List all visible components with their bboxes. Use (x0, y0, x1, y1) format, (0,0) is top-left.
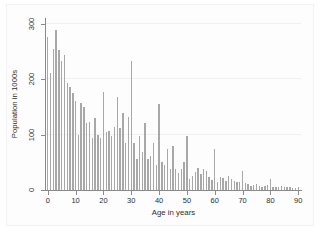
bar (242, 171, 243, 190)
bar (208, 177, 209, 190)
gridline (45, 78, 301, 79)
bar (192, 176, 193, 190)
bar (153, 143, 154, 190)
bar (64, 55, 65, 190)
y-tick-label: 300 (24, 24, 38, 25)
bar (106, 132, 107, 190)
bar (197, 168, 198, 190)
bar (220, 177, 221, 190)
bar (94, 118, 95, 190)
x-tick (131, 191, 132, 195)
bar (183, 162, 184, 190)
bar (108, 131, 109, 190)
bar (217, 182, 218, 190)
bar (133, 143, 134, 190)
bar (156, 165, 157, 190)
bar (142, 152, 143, 190)
bar (231, 179, 232, 190)
bar (167, 149, 168, 190)
x-tick-label: 20 (99, 196, 107, 205)
bar (236, 182, 237, 190)
bar (131, 61, 132, 190)
x-tick-label: 0 (46, 196, 50, 205)
x-tick (243, 191, 244, 195)
bar (86, 123, 87, 190)
y-axis-title: Population in 1000s (10, 70, 19, 139)
bar (245, 183, 246, 190)
y-tick (41, 79, 45, 80)
bar (203, 169, 204, 190)
y-tick (41, 190, 45, 191)
gridline (45, 23, 301, 24)
x-axis-line (45, 190, 302, 191)
plot-area (45, 18, 301, 190)
bar (139, 136, 140, 190)
bar (144, 123, 145, 190)
x-tick (298, 191, 299, 195)
bar (164, 165, 165, 190)
bar (172, 146, 173, 190)
bar (119, 128, 120, 190)
bar (114, 127, 115, 190)
bar (178, 173, 179, 190)
bar (170, 169, 171, 190)
bar (211, 180, 212, 190)
x-axis-title: Age in years (45, 208, 302, 217)
x-tick (48, 191, 49, 195)
bar (78, 135, 79, 190)
x-tick-label: 10 (71, 196, 79, 205)
x-tick-label: 90 (294, 196, 302, 205)
x-tick (103, 191, 104, 195)
y-tick (41, 135, 45, 136)
bar (100, 138, 101, 190)
bar (61, 61, 62, 190)
bar (58, 50, 59, 190)
x-tick-label: 50 (183, 196, 191, 205)
bar (55, 30, 56, 190)
x-tick (187, 191, 188, 195)
bar (228, 176, 229, 190)
y-tick (41, 24, 45, 25)
bar (222, 178, 223, 190)
bar (125, 143, 126, 190)
bar (225, 181, 226, 190)
bar (83, 107, 84, 190)
bar (53, 49, 54, 190)
x-tick (215, 191, 216, 195)
bar (234, 181, 235, 190)
bar (75, 101, 76, 190)
bar (47, 37, 48, 190)
bar (122, 113, 123, 190)
bar (80, 103, 81, 190)
bar (69, 87, 70, 190)
x-tick-label: 70 (238, 196, 246, 205)
bar (181, 169, 182, 190)
bar (97, 135, 98, 190)
bar (270, 179, 271, 190)
bar (214, 149, 215, 190)
bar (111, 136, 112, 190)
bar (195, 172, 196, 190)
y-tick-label: 0 (24, 190, 38, 191)
bar (175, 169, 176, 190)
x-tick-label: 40 (155, 196, 163, 205)
x-tick (159, 191, 160, 195)
bar (103, 92, 104, 190)
bar (89, 122, 90, 190)
bar (239, 182, 240, 190)
bar (117, 97, 118, 190)
bar (189, 179, 190, 190)
bar (200, 174, 201, 190)
bar (72, 93, 73, 190)
bar (128, 117, 129, 190)
x-tick-label: 60 (211, 196, 219, 205)
bar (206, 171, 207, 190)
x-tick-label: 80 (266, 196, 274, 205)
bar (92, 138, 93, 190)
bar (136, 159, 137, 190)
x-tick-label: 30 (127, 196, 135, 205)
x-tick (76, 191, 77, 195)
y-axis-line (45, 18, 46, 191)
y-tick-label: 100 (24, 135, 38, 136)
chart-figure: 0100200300 0102030405060708090 Populatio… (0, 0, 324, 242)
